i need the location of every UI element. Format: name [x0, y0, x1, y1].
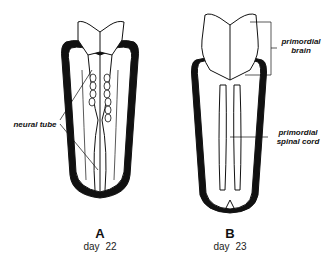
- panel-a-day: day 22: [70, 241, 130, 252]
- label-spinal-cord-line1: primordial: [268, 128, 328, 137]
- embryo-b: [192, 14, 278, 213]
- label-spinal-cord-line2: spinal cord: [268, 137, 328, 146]
- label-primordial-spinal-cord: primordial spinal cord: [268, 128, 328, 146]
- panel-a-letter: A: [80, 226, 120, 241]
- panel-b-day: day 23: [200, 241, 260, 252]
- panel-b-letter: B: [210, 226, 250, 241]
- label-neural-tube: neural tube: [8, 120, 62, 129]
- label-primordial-brain-line2: brain: [276, 46, 326, 55]
- label-primordial-brain: primordial brain: [276, 37, 326, 55]
- label-primordial-brain-line1: primordial: [276, 37, 326, 46]
- embryo-a: [60, 21, 139, 198]
